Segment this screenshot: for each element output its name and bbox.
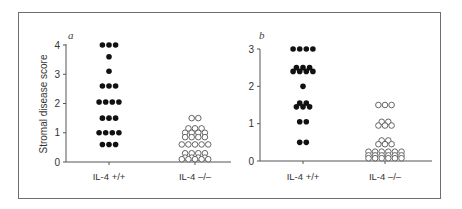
y-axis-ticks: 0123 <box>248 44 260 167</box>
filled-data-point <box>310 46 316 52</box>
open-data-point <box>389 123 395 129</box>
y-axis-label: Stromal disease score <box>38 54 49 153</box>
filled-data-point <box>310 69 316 75</box>
filled-data-point <box>100 142 106 148</box>
filled-data-point <box>304 119 310 125</box>
open-data-point <box>192 156 198 162</box>
category-label-il4-wt: IL-4 +/+ <box>287 171 320 182</box>
filled-data-point <box>100 83 106 89</box>
filled-data-point <box>297 140 303 146</box>
filled-data-point <box>297 119 303 125</box>
filled-data-point <box>290 46 296 52</box>
data-points <box>290 46 404 161</box>
filled-data-point <box>103 99 109 105</box>
open-data-point <box>376 102 382 108</box>
open-data-point <box>372 155 378 161</box>
filled-data-point <box>113 142 119 148</box>
y-tick-label: 3 <box>248 44 254 55</box>
open-data-point <box>199 126 205 132</box>
open-data-point <box>186 156 192 162</box>
open-data-point <box>196 134 202 140</box>
filled-data-point <box>116 99 122 105</box>
category-label-il4-wt: IL-4 +/+ <box>93 171 126 182</box>
open-data-point <box>182 134 188 140</box>
open-data-point <box>199 156 205 162</box>
panel-b: b 0123 IL-4 +/+ IL-4 –/– <box>248 29 432 182</box>
filled-data-point <box>100 115 106 121</box>
filled-data-point <box>304 69 310 75</box>
filled-data-point <box>290 69 296 75</box>
y-tick-label: 1 <box>54 127 60 138</box>
filled-data-point <box>106 83 112 89</box>
open-data-point <box>382 141 388 147</box>
filled-data-point <box>297 69 303 75</box>
filled-data-point <box>106 115 112 121</box>
open-data-point <box>376 141 382 147</box>
open-data-point <box>382 102 388 108</box>
open-data-point <box>386 155 392 161</box>
open-data-point <box>179 156 185 162</box>
y-tick-label: 2 <box>54 98 60 109</box>
filled-data-point <box>116 130 122 136</box>
category-label-il4-ko: IL-4 –/– <box>369 171 402 182</box>
open-data-point <box>189 134 195 140</box>
open-data-point <box>379 155 385 161</box>
open-data-point <box>186 126 192 132</box>
y-tick-label: 1 <box>248 118 254 129</box>
filled-data-point <box>297 46 303 52</box>
filled-data-point <box>103 130 109 136</box>
filled-data-point <box>113 83 119 89</box>
filled-data-point <box>304 140 310 146</box>
filled-data-point <box>113 42 119 48</box>
filled-data-point <box>294 104 300 110</box>
open-data-point <box>389 102 395 108</box>
filled-data-point <box>113 115 119 121</box>
open-data-point <box>399 155 405 161</box>
open-data-point <box>382 123 388 129</box>
filled-data-point <box>100 42 106 48</box>
filled-data-point <box>307 104 313 110</box>
panel-a: a Stromal disease score 01234 IL-4 +/+ I… <box>38 29 231 182</box>
filled-data-point <box>110 130 116 136</box>
open-data-point <box>192 142 198 148</box>
open-data-point <box>199 142 205 148</box>
filled-data-point <box>300 104 306 110</box>
y-tick-label: 3 <box>54 69 60 80</box>
y-tick-label: 0 <box>54 157 60 168</box>
data-points <box>96 42 211 162</box>
open-data-point <box>366 155 372 161</box>
open-data-point <box>205 142 211 148</box>
category-label-il4-ko: IL-4 –/– <box>179 171 212 182</box>
open-data-point <box>202 134 208 140</box>
open-data-point <box>376 123 382 129</box>
y-tick-label: 4 <box>54 40 60 51</box>
panel-letter-b: b <box>259 29 265 41</box>
open-data-point <box>186 142 192 148</box>
panel-letter-a: a <box>68 29 74 41</box>
filled-data-point <box>106 69 112 75</box>
filled-data-point <box>304 46 310 52</box>
filled-data-point <box>106 142 112 148</box>
filled-data-point <box>106 54 112 60</box>
open-data-point <box>189 115 195 121</box>
filled-data-point <box>110 99 116 105</box>
open-data-point <box>389 141 395 147</box>
open-data-point <box>392 155 398 161</box>
open-data-point <box>196 115 202 121</box>
y-tick-label: 0 <box>248 156 254 167</box>
open-data-point <box>192 126 198 132</box>
filled-data-point <box>96 99 102 105</box>
open-data-point <box>179 142 185 148</box>
y-tick-label: 2 <box>248 81 254 92</box>
dot-plot-figure: a Stromal disease score 01234 IL-4 +/+ I… <box>0 0 462 209</box>
filled-data-point <box>96 130 102 136</box>
y-axis-ticks: 01234 <box>54 40 66 168</box>
filled-data-point <box>300 84 306 90</box>
open-data-point <box>205 156 211 162</box>
filled-data-point <box>106 42 112 48</box>
